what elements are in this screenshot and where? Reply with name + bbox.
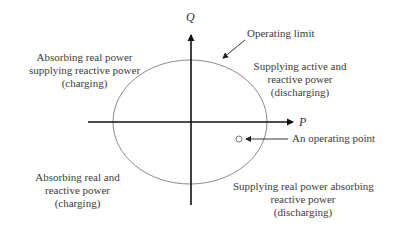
p-axis-label: P [299, 115, 306, 130]
quadrant-top-left-label: Absorbing real power supplying reactive … [22, 51, 147, 90]
operating-point-label: An operating point [292, 132, 375, 145]
quadrant-bottom-right-label: Supplying real power absorbing reactive … [233, 180, 373, 219]
quadrant-top-right-line3: (discharging) [250, 86, 350, 99]
operating-limit-arrow [223, 40, 245, 58]
quadrant-bottom-right-line1: Supplying real power absorbing [233, 180, 373, 193]
quadrant-bottom-left-line2: reactive power [30, 184, 125, 197]
quadrant-top-left-line3: (charging) [22, 77, 147, 90]
q-axis-label: Q [186, 10, 195, 25]
operating-limit-label: Operating limit [247, 27, 315, 40]
quadrant-bottom-right-line2: reactive power [233, 193, 373, 206]
quadrant-bottom-left-line1: Absorbing real and [30, 171, 125, 184]
quadrant-bottom-left-line3: (charging) [30, 197, 125, 210]
quadrant-top-left-line1: Absorbing real power [22, 51, 147, 64]
quadrant-bottom-right-line3: (discharging) [233, 206, 373, 219]
quadrant-top-right-line2: reactive power [250, 73, 350, 86]
quadrant-top-right-line1: Supplying active and [250, 60, 350, 73]
quadrant-bottom-left-label: Absorbing real and reactive power (charg… [30, 171, 125, 210]
quadrant-top-left-line2: supplying reactive power [22, 64, 147, 77]
quadrant-top-right-label: Supplying active and reactive power (dis… [250, 60, 350, 99]
operating-point-marker [236, 136, 242, 142]
